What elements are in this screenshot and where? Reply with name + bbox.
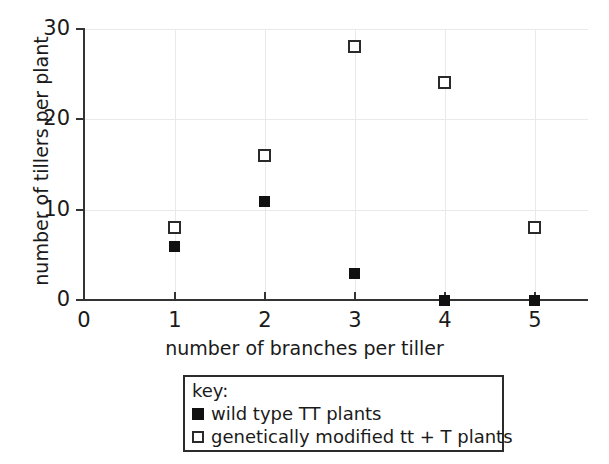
x-tick-1	[174, 292, 176, 301]
data-point-wt-1	[169, 241, 180, 252]
scatter-chart-figure: 30 20 10 0 0 1 2 3 4 5 number of branche…	[0, 0, 609, 464]
gridline-y-20	[84, 119, 588, 120]
data-point-gm-2	[258, 149, 271, 162]
plot-area	[84, 29, 588, 300]
x-axis-label: number of branches per tiller	[0, 337, 609, 359]
data-point-wt-4	[439, 295, 450, 306]
gridline-x-1	[175, 29, 176, 300]
x-axis-line	[84, 299, 588, 301]
gridline-x-2	[265, 29, 266, 300]
data-point-gm-1	[168, 221, 181, 234]
y-axis-label: number of tillers per plant	[30, 26, 52, 296]
gridline-y-10	[84, 210, 588, 211]
legend-item-label: genetically modified tt + T plants	[211, 425, 513, 448]
y-tick-20	[76, 118, 85, 120]
x-tick-label-1: 1	[155, 310, 195, 331]
data-point-gm-3	[348, 40, 361, 53]
legend-item-wild-type: wild type TT plants	[192, 402, 502, 425]
data-point-gm-5	[528, 221, 541, 234]
data-point-wt-3	[349, 268, 360, 279]
gridline-x-4	[445, 29, 446, 300]
data-point-gm-4	[438, 76, 451, 89]
gridline-x-3	[355, 29, 356, 300]
open-square-icon	[192, 431, 204, 443]
x-tick-3	[354, 292, 356, 301]
x-tick-2	[264, 292, 266, 301]
x-tick-label-4: 4	[425, 310, 465, 331]
x-tick-label-2: 2	[245, 310, 285, 331]
legend-title: key:	[192, 381, 502, 401]
y-tick-10	[76, 209, 85, 211]
x-tick-label-3: 3	[335, 310, 375, 331]
x-tick-0	[83, 292, 85, 301]
x-tick-label-0: 0	[64, 310, 104, 331]
y-tick-30	[76, 28, 85, 30]
gridline-y-30	[84, 29, 588, 30]
data-point-wt-5	[529, 295, 540, 306]
x-tick-label-5: 5	[515, 310, 555, 331]
legend-box: key: wild type TT plants genetically mod…	[183, 375, 504, 452]
gridline-x-5	[535, 29, 536, 300]
data-point-wt-2	[259, 196, 270, 207]
legend-item-genetically-modified: genetically modified tt + T plants	[192, 425, 502, 448]
y-axis-line	[83, 28, 85, 301]
legend-item-label: wild type TT plants	[211, 402, 382, 425]
filled-square-icon	[192, 408, 204, 420]
